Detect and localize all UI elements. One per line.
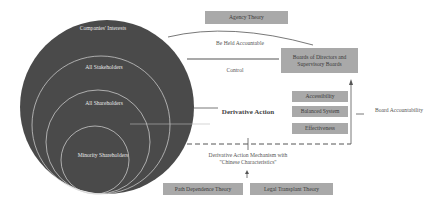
board-accountability-label: Board Accountability <box>368 107 430 114</box>
agency-theory-box: Agency Theory <box>205 11 288 24</box>
path-dependence-box: Path Dependence Theory <box>163 183 243 195</box>
mechanism-label: Derivative Action Mechanism with "Chines… <box>200 152 296 166</box>
be-held-accountable-label: Be Held Accountable <box>200 40 280 47</box>
effectiveness-box: Effectiveness <box>292 123 348 134</box>
theory-arrowhead <box>245 170 249 174</box>
label-all-shareholders: All Shareholders <box>74 100 134 107</box>
label-minority-shareholders: Minority Shareholders <box>73 152 133 159</box>
legal-transplant-box: Legal Transplant Theory <box>250 183 333 195</box>
boards-box: Boards of Directors and Supervisory Boar… <box>281 48 358 73</box>
label-all-stakeholders: All Stakeholders <box>74 64 134 71</box>
control-label: Control <box>210 67 260 74</box>
bracket-arrowhead <box>349 79 353 85</box>
label-companies-interests: Companies' Interests <box>68 25 138 32</box>
accessibility-box: Accessibility <box>292 91 348 102</box>
derivative-action-label: Derivative Action <box>218 108 278 117</box>
diagram-graphics <box>0 0 436 206</box>
balanced-system-box: Balanced System <box>292 106 348 117</box>
